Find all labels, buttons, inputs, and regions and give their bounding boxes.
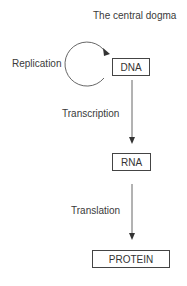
replication-label: Replication xyxy=(12,58,61,69)
replication-loop-arrow xyxy=(65,42,106,86)
dna-node: DNA xyxy=(112,58,150,76)
transcription-label: Transcription xyxy=(62,108,119,119)
translation-arrowhead xyxy=(129,233,135,240)
transcription-arrowhead xyxy=(129,137,135,144)
rna-node: RNA xyxy=(112,153,151,171)
protein-node: PROTEIN xyxy=(92,250,170,268)
translation-label: Translation xyxy=(71,205,120,216)
diagram-arrows xyxy=(0,0,187,286)
replication-arrowhead xyxy=(103,48,110,56)
